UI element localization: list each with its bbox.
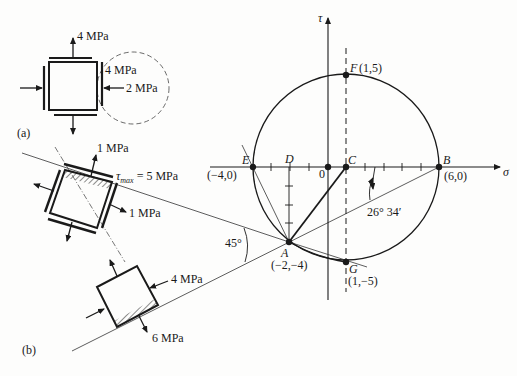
label-C: C (348, 153, 357, 167)
point-B (436, 164, 442, 170)
coords-E: (−4,0) (207, 168, 237, 182)
point-E (250, 164, 256, 170)
label-B: B (443, 153, 451, 167)
label-origin: 0 (319, 167, 325, 181)
label-tension-b2: 6 MPa (152, 331, 184, 345)
label-normal-right-b1: 1 MPa (129, 206, 161, 220)
coords-F: (1,5) (359, 61, 382, 75)
label-sigma-y-a: 4 MPa (77, 29, 109, 43)
point-F (343, 72, 349, 78)
label-D: D (284, 152, 294, 166)
angle-arc-2634 (373, 167, 375, 189)
label-E: E (241, 153, 250, 167)
sigma-axis-label: σ (503, 165, 510, 179)
label-tau-a: 4 MPa (105, 63, 137, 77)
construction-line-lower (72, 167, 439, 351)
mohr-circle-diagram: σ τ (207, 11, 510, 300)
part-label-b: (b) (22, 343, 36, 357)
angle-arc-45 (244, 228, 248, 262)
label-normal-top-b1: 1 MPa (97, 141, 129, 155)
label-sigma-x-a: 2 MPa (126, 81, 158, 95)
stress-element-b1: 1 MPa τmax = 5 MPa 1 MPa (34, 141, 179, 241)
mohr-circle-figure: 4 MPa 4 MPa 2 MPa (a) 1 MPa τmax = 5 MPa… (0, 0, 517, 376)
point-O (325, 164, 331, 170)
angle-label-principal: 26° 34′ (367, 205, 402, 219)
figure-svg: 4 MPa 4 MPa 2 MPa (a) 1 MPa τmax = 5 MPa… (0, 0, 517, 376)
coords-B: (6,0) (444, 169, 467, 183)
label-tau-max: τmax = 5 MPa (116, 169, 179, 185)
coords-A: (−2,−4) (271, 258, 308, 272)
label-compression-b2: 4 MPa (171, 272, 203, 286)
coords-G: (1,−5) (348, 274, 378, 288)
point-A (286, 239, 292, 245)
label-F: F (349, 61, 358, 75)
radius-CA (289, 167, 346, 242)
stress-element-b2: 4 MPa 6 MPa (86, 260, 203, 345)
element-a-square (49, 62, 97, 110)
stress-element-a: 4 MPa 4 MPa 2 MPa (a) (17, 29, 169, 140)
angle-label-shear: 45° (225, 236, 242, 250)
part-label-a: (a) (17, 126, 30, 140)
tau-axis-label: τ (318, 11, 323, 25)
